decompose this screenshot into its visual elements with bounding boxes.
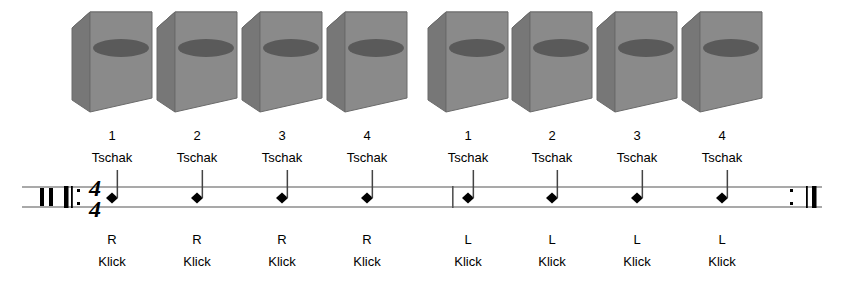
hand-label: R — [327, 232, 407, 247]
cajon-box-icon — [155, 10, 239, 114]
cajon-box-icon — [426, 10, 510, 114]
beat-number: 1 — [428, 128, 508, 143]
tschak-label: Tschak — [67, 150, 157, 165]
klick-label: Klick — [677, 254, 767, 269]
beat-number: 4 — [682, 128, 762, 143]
cajon-box-icon — [510, 10, 594, 114]
klick-label: Klick — [592, 254, 682, 269]
beat-number: 4 — [327, 128, 407, 143]
beat-number: 1 — [72, 128, 152, 143]
cajon-box-icon — [240, 10, 324, 114]
music-staff: 44 — [0, 170, 844, 225]
cajon-box-icon — [325, 10, 409, 114]
klick-label: Klick — [237, 254, 327, 269]
cajon-box-icon — [70, 10, 154, 114]
tschak-label: Tschak — [237, 150, 327, 165]
tschak-label: Tschak — [423, 150, 513, 165]
beat-number: 2 — [157, 128, 237, 143]
klick-label: Klick — [67, 254, 157, 269]
klick-label: Klick — [322, 254, 412, 269]
beat-number: 3 — [242, 128, 322, 143]
tschak-label: Tschak — [322, 150, 412, 165]
tschak-label: Tschak — [507, 150, 597, 165]
hand-label: R — [157, 232, 237, 247]
cajon-row — [0, 0, 844, 120]
beat-number: 3 — [597, 128, 677, 143]
klick-label: Klick — [152, 254, 242, 269]
cajon-box-icon — [680, 10, 764, 114]
hand-label: L — [428, 232, 508, 247]
tschak-label: Tschak — [592, 150, 682, 165]
hand-label: R — [242, 232, 322, 247]
svg-text:4: 4 — [88, 196, 101, 222]
hand-label: L — [512, 232, 592, 247]
beat-number: 2 — [512, 128, 592, 143]
hand-label: R — [72, 232, 152, 247]
tschak-label: Tschak — [152, 150, 242, 165]
notation-figure: 12341234 TschakTschakTschakTschakTschakT… — [0, 0, 844, 283]
tschak-label: Tschak — [677, 150, 767, 165]
hand-label: L — [597, 232, 677, 247]
cajon-box-icon — [595, 10, 679, 114]
hand-label: L — [682, 232, 762, 247]
klick-label: Klick — [507, 254, 597, 269]
klick-label: Klick — [423, 254, 513, 269]
